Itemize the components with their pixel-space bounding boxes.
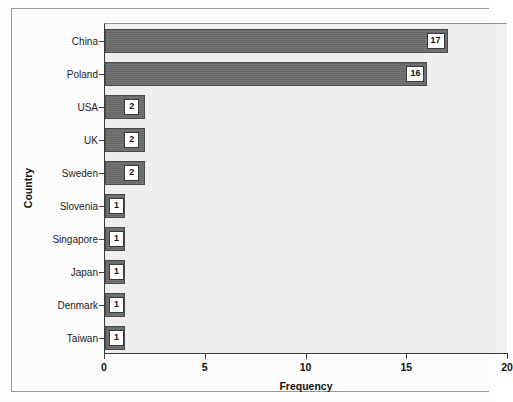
x-axis-tick: [406, 353, 407, 359]
x-axis-tick-label: 20: [501, 361, 513, 373]
x-axis-tick: [104, 353, 105, 359]
bar-value-label: 1: [109, 198, 124, 214]
x-axis-tick: [205, 353, 206, 359]
x-axis-tick: [507, 353, 508, 359]
y-axis-tick: [99, 107, 105, 108]
bar-china[interactable]: [105, 29, 448, 53]
y-axis-tick: [99, 173, 105, 174]
bar-row: 2: [105, 95, 508, 119]
figure-frame: Country 171622211111 ChinaPolandUSAUKSwe…: [11, 8, 489, 392]
y-axis-tick: [99, 41, 105, 42]
y-axis-label-poland: Poland: [67, 68, 98, 79]
bar-row: 2: [105, 128, 508, 152]
x-axis-title: Frequency: [279, 380, 332, 392]
y-axis-label-usa: USA: [77, 101, 98, 112]
bar-row: 1: [105, 293, 508, 317]
bar-row: 17: [105, 29, 508, 53]
plot-area: 171622211111 ChinaPolandUSAUKSwedenSlove…: [104, 23, 507, 353]
y-axis-label-uk: UK: [84, 134, 98, 145]
y-axis-tick: [99, 272, 105, 273]
bar-value-label: 2: [124, 165, 139, 181]
bar-row: 1: [105, 260, 508, 284]
y-axis-tick: [99, 239, 105, 240]
bar-row: 1: [105, 194, 508, 218]
x-axis-tick-label: 5: [202, 361, 208, 373]
bar-value-label: 1: [109, 231, 124, 247]
y-axis-label-slovenia: Slovenia: [60, 200, 98, 211]
bar-value-label: 1: [109, 264, 124, 280]
bar-value-label: 17: [427, 33, 445, 49]
y-axis-label-japan: Japan: [71, 266, 98, 277]
bar-value-label: 1: [109, 297, 124, 313]
bar-value-label: 2: [124, 99, 139, 115]
y-axis-label-china: China: [72, 35, 98, 46]
y-axis-label-sweden: Sweden: [62, 167, 98, 178]
y-axis-title: Country: [22, 168, 34, 208]
bar-value-label: 1: [109, 330, 124, 346]
y-axis-tick: [99, 140, 105, 141]
y-axis-tick: [99, 338, 105, 339]
bar-value-label: 2: [124, 132, 139, 148]
y-axis-tick: [99, 206, 105, 207]
x-axis-tick-label: 0: [101, 361, 107, 373]
bar-value-label: 16: [406, 66, 424, 82]
y-axis-tick: [99, 74, 105, 75]
bar-row: 1: [105, 227, 508, 251]
x-axis-tick-label: 10: [300, 361, 312, 373]
x-axis-tick-label: 15: [400, 361, 412, 373]
y-axis-label-denmark: Denmark: [57, 299, 98, 310]
x-axis-tick: [306, 353, 307, 359]
bar-row: 16: [105, 62, 508, 86]
y-axis-tick: [99, 305, 105, 306]
y-axis-label-singapore: Singapore: [52, 233, 98, 244]
bar-row: 2: [105, 161, 508, 185]
bar-row: 1: [105, 326, 508, 350]
bar-poland[interactable]: [105, 62, 427, 86]
y-axis-label-taiwan: Taiwan: [67, 332, 98, 343]
